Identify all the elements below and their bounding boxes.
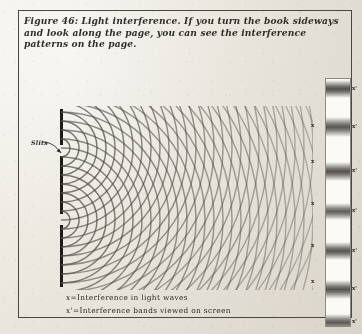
interference-fringe (326, 314, 350, 328)
legend-line-bands: x'=Interference bands viewed on screen (66, 304, 231, 317)
antinode-marker: x (311, 122, 314, 128)
observation-screen (325, 78, 351, 327)
fringe-marker: x' (352, 123, 357, 129)
antinode-marker: x (311, 200, 314, 206)
fringe-marker: x' (352, 85, 357, 91)
wavefront-rings (61, 106, 313, 290)
interference-fringe (326, 203, 350, 220)
fringe-marker: x' (352, 247, 357, 253)
interference-fringe (326, 117, 350, 137)
interference-fringe (326, 80, 350, 98)
interference-diagram: Slits xxxxx x'x'x'x'x'x'x' x=Interferenc… (18, 10, 352, 318)
interference-fringe (326, 242, 350, 260)
interference-fringe (326, 280, 350, 299)
antinode-marker: x (311, 158, 314, 164)
wave-interference-field (61, 106, 313, 290)
figure-legend: x=Interference in light waves x'=Interfe… (66, 291, 231, 317)
antinode-marker: x (311, 278, 314, 284)
fringe-marker: x' (352, 285, 357, 291)
fringe-marker: x' (352, 318, 357, 324)
legend-line-waves: x=Interference in light waves (66, 291, 231, 304)
antinode-marker: x (311, 242, 314, 248)
interference-fringe (326, 162, 350, 181)
fringe-marker: x' (352, 207, 357, 213)
fringe-marker: x' (352, 167, 357, 173)
